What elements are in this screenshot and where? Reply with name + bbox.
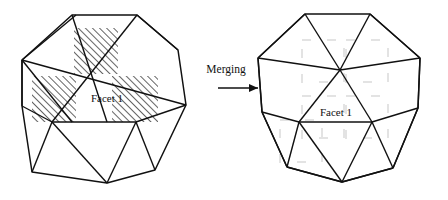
right-edge-3 [340,58,420,70]
right-edge-13 [287,122,299,167]
right-edge-20 [342,168,393,182]
right-edge-19 [393,108,418,168]
right-edge-18 [372,122,393,168]
right-facet-label: Facet 1 [320,106,352,118]
left-edge-12 [137,15,178,50]
left-edge-9 [107,122,136,183]
right-internal-edges [258,14,420,182]
left-edge-3 [22,15,76,60]
right-edge-15 [299,122,342,182]
left-edge-8 [52,122,107,183]
right-edge-1 [340,14,370,70]
right-edge-2 [258,58,340,70]
right-edge-17 [287,167,342,182]
right-edge-5 [370,14,420,58]
right-edge-9 [372,108,418,122]
left-facet-label: Facet 1 [91,92,123,104]
merging-label: Merging [206,63,246,76]
right-edge-0 [305,14,340,70]
left-diagram-group: Facet 1 [22,15,186,183]
right-diagram-group: Facet 1 [258,14,420,182]
diagram-canvas: Facet 1 Merging Facet 1 [0,0,448,200]
left-edge-10 [136,122,155,170]
figure-container: Facet 1 Merging Facet 1 [0,0,448,200]
right-edge-4 [258,14,305,58]
merging-arrow-group: Merging [206,63,258,92]
hatched-patch-layer [32,28,158,122]
right-edge-7 [418,58,420,108]
arrow-head [249,84,258,92]
watermark-square-4 [280,120,322,162]
left-edge-7 [32,122,52,172]
watermark-square-0 [302,40,344,82]
watermark-squares [280,40,388,162]
right-edge-6 [258,58,262,112]
